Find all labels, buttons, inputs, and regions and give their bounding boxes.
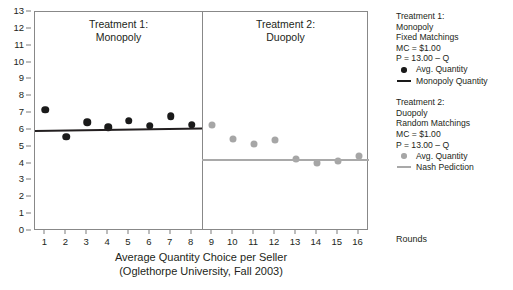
trend-line <box>35 127 202 131</box>
panel-title-treatment-2: Treatment 2: Duopoly <box>202 18 369 44</box>
y-axis-tick-label: 13 <box>13 6 24 16</box>
x-axis-title: Average Quantity Choice per Seller (Ogle… <box>34 250 368 278</box>
panel-title-treatment-1: Treatment 1: Monopoly <box>35 18 202 44</box>
data-point <box>272 137 279 144</box>
x-axis-tick-mark <box>336 230 337 234</box>
y-axis-tick-mark <box>26 230 31 231</box>
x-axis-tick-label: 10 <box>227 237 238 247</box>
y-axis-tick-mark <box>26 61 31 62</box>
legend-gray-line-icon <box>396 166 412 167</box>
y-axis-tick-mark <box>26 112 31 113</box>
data-point <box>230 136 237 143</box>
y-axis-tick-label: 11 <box>14 40 24 50</box>
x-axis-tick-mark <box>190 230 191 234</box>
x-axis-tick-label: 12 <box>269 237 280 247</box>
x-axis-tick-label: 4 <box>104 237 109 247</box>
y-axis-tick-label: 3 <box>19 174 24 184</box>
legend-t1-line4: MC = $1.00 <box>396 43 513 54</box>
x-axis-tick-label: 14 <box>311 237 322 247</box>
x-axis-tick-label: 13 <box>290 237 301 247</box>
data-point <box>83 119 91 127</box>
legend-t2-line2: Duopoly <box>396 108 513 119</box>
data-point <box>42 106 50 114</box>
panel-divider <box>202 12 203 229</box>
data-point <box>209 121 216 128</box>
panel-left-title-line2: Monopoly <box>96 31 142 43</box>
legend-block-treatment-1: Treatment 1: Monopoly Fixed Matchings MC… <box>396 11 513 86</box>
x-axis-tick-mark <box>315 230 316 234</box>
data-point <box>125 117 133 125</box>
x-axis-tick-label: 15 <box>331 237 342 247</box>
legend-block-treatment-2: Treatment 2: Duopoly Random Matchings MC… <box>396 97 513 172</box>
y-axis-tick-label: 10 <box>13 57 24 67</box>
legend-t1-line5: P = 13.00 – Q <box>396 53 513 64</box>
y-axis-tick-label: 7 <box>19 107 24 117</box>
legend-black-dot-icon <box>396 67 412 73</box>
legend-t2-line5: P = 13.00 – Q <box>396 140 513 151</box>
panel-right-title-line1: Treatment 2: <box>256 18 315 30</box>
y-axis-tick-mark <box>26 196 31 197</box>
x-axis-tick-label: 1 <box>42 237 47 247</box>
legend-t2-line3: Random Matchings <box>396 118 513 129</box>
y-axis-tick-label: 4 <box>19 158 24 168</box>
x-axis-tick-label: 5 <box>125 237 130 247</box>
x-axis-tick-label: 3 <box>84 237 89 247</box>
x-axis-tick-label: 16 <box>352 237 363 247</box>
legend-t2-line1: Treatment 2: <box>396 97 513 108</box>
y-axis-tick-label: 9 <box>19 73 24 83</box>
x-axis-tick-label: 9 <box>209 237 214 247</box>
plot-area: Treatment 1: Monopoly Treatment 2: Duopo… <box>34 11 368 230</box>
legend-black-line-icon <box>396 80 412 82</box>
y-axis-tick-label: 8 <box>19 90 24 100</box>
x-axis-title-line1: Average Quantity Choice per Seller <box>34 250 368 264</box>
y-axis-tick-mark <box>26 162 31 163</box>
data-point <box>251 141 258 148</box>
y-axis-tick-mark <box>26 213 31 214</box>
legend-t1-line2: Monopoly <box>396 22 513 33</box>
legend-t1-line1: Treatment 1: <box>396 11 513 22</box>
legend-t2-entry-avg-quantity: Avg. Quantity <box>396 151 513 162</box>
y-axis-tick-label: 12 <box>13 23 24 33</box>
legend-t2-line4: MC = $1.00 <box>396 129 513 140</box>
y-axis-tick-label: 5 <box>19 141 24 151</box>
data-point <box>167 113 175 121</box>
x-axis-tick-label: 11 <box>248 237 258 247</box>
chart-figure: 012345678910111213 Treatment 1: Monopoly… <box>0 0 513 290</box>
x-axis-tick-mark <box>65 230 66 234</box>
y-axis-tick-label: 6 <box>19 124 24 134</box>
y-axis-tick-label: 1 <box>19 208 24 218</box>
y-axis-tick-mark <box>26 145 31 146</box>
x-axis-tick-label: 6 <box>146 237 151 247</box>
y-axis-tick-mark <box>26 27 31 28</box>
y-axis-tick-mark <box>26 128 31 129</box>
x-axis-tick-mark <box>44 230 45 234</box>
x-axis-tick-label: 8 <box>188 237 193 247</box>
rounds-label: Rounds <box>396 234 427 245</box>
x-axis-tick-mark <box>357 230 358 234</box>
y-axis-tick-mark <box>26 44 31 45</box>
x-axis-tick-mark <box>274 230 275 234</box>
x-axis-tick-label: 2 <box>63 237 68 247</box>
y-axis-tick-mark <box>26 179 31 180</box>
trend-line <box>202 159 369 160</box>
y-axis-tick-mark <box>26 95 31 96</box>
x-axis-tick-mark <box>86 230 87 234</box>
chart-legend: Treatment 1: Monopoly Fixed Matchings MC… <box>396 11 513 183</box>
x-axis-tick-mark <box>107 230 108 234</box>
x-axis-tick-mark <box>211 230 212 234</box>
x-axis-tick-mark <box>294 230 295 234</box>
y-axis-tick-label: 2 <box>19 191 24 201</box>
x-axis-tick-mark <box>232 230 233 234</box>
x-axis-tick-label: 7 <box>167 237 172 247</box>
legend-t1-entry-monopoly-quantity: Monopoly Quantity <box>396 76 513 87</box>
x-axis: 12345678910111213141516 <box>34 230 368 248</box>
legend-t1-entry1-label: Avg. Quantity <box>412 64 467 75</box>
data-point <box>63 133 71 141</box>
y-axis-tick-mark <box>26 11 31 12</box>
legend-t1-entry-avg-quantity: Avg. Quantity <box>396 64 513 75</box>
panel-left-title-line1: Treatment 1: <box>89 18 148 30</box>
y-axis: 012345678910111213 <box>0 0 34 240</box>
legend-gray-dot-icon <box>396 153 412 159</box>
x-axis-tick-mark <box>169 230 170 234</box>
legend-t1-entry2-label: Monopoly Quantity <box>412 76 488 87</box>
